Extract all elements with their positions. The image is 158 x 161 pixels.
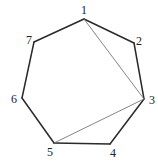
edge-7-1 [34, 19, 84, 42]
vertex-label-7: 7 [26, 33, 32, 47]
vertex-label-6: 6 [11, 92, 17, 106]
vertex-label-2: 2 [136, 34, 142, 48]
heptagon-diagram: 1234567 [0, 0, 158, 161]
edge-1-2 [84, 19, 134, 43]
vertex-label-5: 5 [47, 145, 53, 159]
vertex-label-3: 3 [149, 93, 155, 107]
polygon-edges [22, 19, 144, 144]
edge-6-7 [22, 42, 34, 98]
vertex-labels: 1234567 [11, 3, 155, 160]
vertex-label-4: 4 [110, 146, 116, 160]
diagonal-1-3 [84, 19, 144, 99]
edge-3-4 [110, 99, 144, 144]
vertex-label-1: 1 [81, 3, 87, 17]
edge-5-6 [22, 98, 54, 143]
edge-4-5 [54, 143, 110, 144]
diagonal-3-5 [54, 99, 144, 143]
edge-2-3 [134, 43, 144, 99]
diagonals [54, 19, 144, 143]
heptagon-figure: 1234567 [0, 0, 158, 161]
